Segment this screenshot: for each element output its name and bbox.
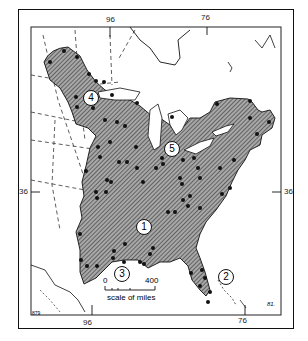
bay-coastline xyxy=(130,27,190,65)
distribution-area xyxy=(44,47,275,296)
scale-bar xyxy=(105,286,155,290)
mexico-coastline xyxy=(31,265,85,312)
distribution-map xyxy=(0,0,308,341)
